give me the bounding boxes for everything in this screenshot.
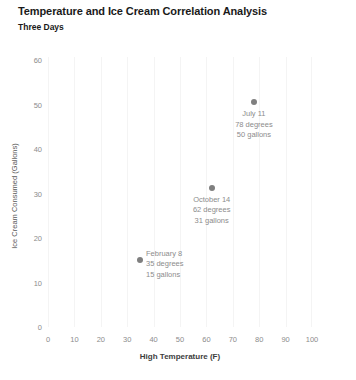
gridline-vertical	[311, 57, 312, 327]
x-axis-tick: 80	[246, 336, 272, 344]
x-axis-tick: 40	[141, 336, 167, 344]
x-axis-tick: 20	[88, 336, 114, 344]
data-point-label-name: February 8	[146, 249, 184, 260]
gridline-vertical	[233, 57, 234, 327]
gridline-vertical	[206, 57, 207, 327]
gridline-vertical	[74, 57, 75, 327]
data-point-label: July 11 78 degrees 50 gallons	[235, 109, 273, 141]
x-axis-tick: 60	[193, 336, 219, 344]
x-axis-tick: 70	[220, 336, 246, 344]
plot-area: July 11 78 degrees 50 gallons October 14…	[48, 57, 312, 327]
data-point-marker[interactable]	[251, 99, 257, 105]
data-point-marker[interactable]	[137, 257, 143, 263]
x-axis-tick: 100	[299, 336, 325, 344]
chart-title: Temperature and Ice Cream Correlation An…	[18, 5, 267, 17]
y-axis-title: Ice Cream Consumed (Gallons)	[10, 126, 19, 266]
gridline-vertical	[154, 57, 155, 327]
y-axis-tick: 50	[12, 102, 42, 110]
gridline-vertical	[259, 57, 260, 327]
data-point-label-x: 62 degrees	[193, 205, 231, 216]
data-point-label-name: October 14	[193, 195, 231, 206]
data-point-label: February 8 35 degrees 15 gallons	[146, 249, 184, 281]
x-axis-tick: 10	[61, 336, 87, 344]
data-point-label-x: 78 degrees	[235, 120, 273, 131]
gridline-vertical	[127, 57, 128, 327]
x-axis-tick: 0	[35, 336, 61, 344]
y-axis-tick: 0	[12, 324, 42, 332]
data-point-label-y: 15 gallons	[146, 270, 184, 281]
data-point-label-name: July 11	[235, 109, 273, 120]
x-axis-tick: 30	[114, 336, 140, 344]
data-point-label-x: 35 degrees	[146, 259, 184, 270]
gridline-vertical	[101, 57, 102, 327]
data-point-label: October 14 62 degrees 31 gallons	[193, 195, 231, 227]
x-axis-tick: 90	[273, 336, 299, 344]
gridline-vertical	[180, 57, 181, 327]
gridline-vertical	[286, 57, 287, 327]
y-axis-tick: 60	[12, 57, 42, 65]
x-axis-tick: 50	[167, 336, 193, 344]
data-point-label-y: 31 gallons	[193, 216, 231, 227]
y-axis-tick: 10	[12, 280, 42, 288]
data-point-label-y: 50 gallons	[235, 130, 273, 141]
data-point-marker[interactable]	[209, 185, 215, 191]
gridline-vertical	[48, 57, 49, 327]
scatter-chart: Temperature and Ice Cream Correlation An…	[0, 0, 356, 380]
x-axis-title: High Temperature (F)	[48, 352, 312, 361]
